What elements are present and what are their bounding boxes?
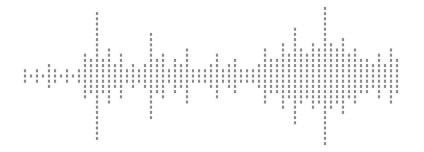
waveform-dash [282, 69, 284, 72]
waveform-dash [108, 49, 110, 52]
waveform-dash [150, 33, 152, 36]
waveform-dash [120, 59, 122, 62]
waveform-dash [360, 64, 362, 67]
waveform-bar [216, 54, 218, 99]
waveform-dash [300, 95, 302, 98]
waveform-dash [78, 80, 80, 83]
waveform-dash [318, 95, 320, 98]
waveform-dash [132, 80, 134, 83]
waveform-dash [126, 69, 128, 72]
waveform-dash [126, 75, 128, 78]
waveform-bar [78, 69, 80, 82]
waveform-dash [150, 69, 152, 72]
waveform-dash [282, 54, 284, 57]
waveform-dash [312, 64, 314, 67]
waveform-dash [216, 85, 218, 88]
waveform-dash [288, 59, 290, 62]
waveform-dash [60, 75, 62, 78]
waveform-dash [348, 95, 350, 98]
waveform-bar [306, 54, 308, 99]
waveform-bar [36, 69, 38, 82]
waveform-dash [192, 69, 194, 72]
waveform-bar [168, 69, 170, 82]
waveform-dash [210, 75, 212, 78]
waveform-dash [234, 59, 236, 62]
waveform-dash [312, 69, 314, 72]
waveform-dash [276, 69, 278, 72]
waveform-dash [48, 85, 50, 88]
waveform-dash [378, 90, 380, 93]
waveform-dash [372, 64, 374, 67]
waveform-dash [294, 75, 296, 78]
waveform-dash [228, 75, 230, 78]
waveform-dash [300, 59, 302, 62]
waveform-dash [342, 43, 344, 46]
waveform-dash [240, 69, 242, 72]
waveform-dash [288, 90, 290, 93]
waveform-dash [108, 101, 110, 104]
waveform-dash [36, 80, 38, 83]
waveform-dash [186, 101, 188, 104]
waveform-dash [390, 69, 392, 72]
waveform-dash [180, 64, 182, 67]
waveform-dash [132, 85, 134, 88]
waveform-dash [288, 95, 290, 98]
waveform-dash [276, 85, 278, 88]
waveform-dash [114, 69, 116, 72]
waveform-dash [90, 59, 92, 62]
waveform-dash [372, 80, 374, 83]
waveform-dash [96, 38, 98, 41]
waveform-dash [330, 80, 332, 83]
waveform-dash [24, 75, 26, 78]
waveform-dash [96, 75, 98, 78]
waveform-dash [270, 75, 272, 78]
waveform-dash [48, 69, 50, 72]
waveform-bar [150, 33, 152, 119]
waveform-dash [384, 75, 386, 78]
waveform-dash [150, 75, 152, 78]
waveform-dash [342, 49, 344, 52]
waveform-dash [294, 59, 296, 62]
waveform-dash [360, 90, 362, 93]
waveform-dash [186, 54, 188, 57]
waveform-dash [48, 64, 50, 67]
waveform-dash [294, 95, 296, 98]
waveform-dash [258, 80, 260, 83]
waveform-dash [330, 95, 332, 98]
waveform-dash [120, 54, 122, 57]
waveform-dash [210, 85, 212, 88]
waveform-dash [318, 90, 320, 93]
waveform-dash [366, 90, 368, 93]
waveform-dash [72, 75, 74, 78]
waveform-dash [294, 111, 296, 114]
waveform-dash [186, 75, 188, 78]
waveform-dash [312, 75, 314, 78]
waveform-dash [330, 101, 332, 104]
waveform-dash [90, 90, 92, 93]
waveform-dash [300, 101, 302, 104]
waveform-dash [312, 59, 314, 62]
waveform-dash [348, 69, 350, 72]
waveform-dash [264, 49, 266, 52]
waveform-dash [180, 75, 182, 78]
waveform-dash [312, 80, 314, 83]
waveform-dash [342, 54, 344, 57]
waveform-dash [378, 95, 380, 98]
waveform-dash [330, 54, 332, 57]
waveform-dash [324, 64, 326, 67]
waveform-dash [294, 33, 296, 36]
waveform-dash [300, 54, 302, 57]
waveform-dash [270, 85, 272, 88]
waveform-dash [216, 59, 218, 62]
waveform-dash [186, 49, 188, 52]
waveform-dash [372, 85, 374, 88]
waveform-dash [204, 75, 206, 78]
waveform-dash [276, 80, 278, 83]
waveform-dash [138, 69, 140, 72]
waveform-dash [318, 80, 320, 83]
waveform-dash [354, 80, 356, 83]
waveform-dash [282, 64, 284, 67]
waveform-dash [282, 59, 284, 62]
waveform-dash [102, 80, 104, 83]
waveform-dash [354, 75, 356, 78]
